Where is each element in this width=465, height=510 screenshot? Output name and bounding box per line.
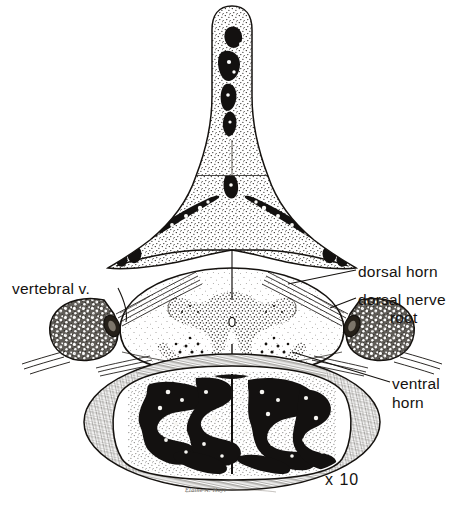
artist-signature: Elaine A. Hoyt <box>185 487 226 493</box>
label-ventral-horn: ventral <box>392 374 440 393</box>
label-dorsal-horn: dorsal horn <box>358 262 438 281</box>
magnification-label: x 10 <box>325 470 359 489</box>
label-dorsal-nerve-root: dorsal nerve <box>358 290 446 309</box>
label-ventral-horn-line2: horn <box>392 393 424 412</box>
vertebral-body-marrow <box>110 364 355 484</box>
central-canal <box>229 317 235 326</box>
label-dorsal-nerve-root-line2: root <box>390 308 418 327</box>
label-vertebral-vein: vertebral v. <box>12 279 90 298</box>
vertebra-spinal-cord-illustration <box>0 0 465 510</box>
